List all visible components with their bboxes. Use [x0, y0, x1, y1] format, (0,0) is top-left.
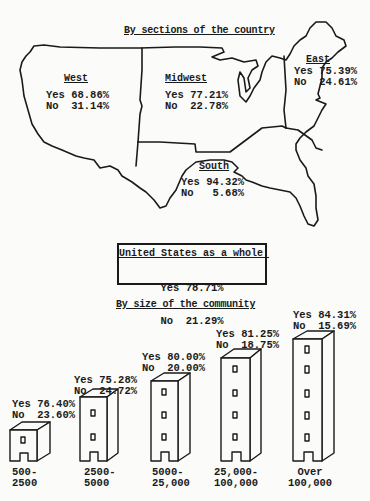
community-label: 25,000- 100,000: [214, 467, 258, 489]
west-south-border: [136, 142, 138, 166]
community-label: 2500- 5000: [84, 467, 116, 489]
community-no: No 18.75%: [216, 340, 279, 351]
region-name: West: [64, 73, 109, 84]
building-5000-25000: [151, 373, 190, 461]
sections-title: By sections of the country: [124, 25, 275, 36]
community-values-2500-5000: Yes 75.28% No 24.72%: [74, 375, 137, 397]
community-values-25000-100000: Yes 81.25% No 18.75%: [216, 329, 279, 351]
region-no: No 24.61%: [294, 77, 357, 88]
region-name: South: [199, 161, 244, 172]
community-values-5000-25000: Yes 80.00% No 20.00%: [142, 352, 205, 374]
region-name: East: [306, 54, 357, 65]
region-no: No 31.14%: [46, 101, 109, 112]
region-no: No 5.68%: [181, 188, 244, 199]
community-label: Over 100,000: [288, 467, 332, 489]
building-over-100000: [293, 331, 334, 461]
building-25000-100000: [221, 349, 261, 461]
us-whole-no: No 21.29%: [160, 316, 223, 327]
us-whole-yes: Yes 78.71%: [160, 283, 223, 294]
community-values-over-100000: Yes 84.31% No 15.69%: [293, 310, 356, 332]
midwest-south-border: [138, 126, 286, 152]
community-no: No 23.60%: [12, 410, 75, 421]
east-south-border: [286, 128, 322, 150]
region-no: No 22.78%: [165, 101, 228, 112]
us-whole-box: United States as a whole: Yes 78.71% No …: [117, 243, 267, 285]
region-midwest: Midwest Yes 77.21% No 22.78%: [165, 73, 228, 112]
community-no: No 15.69%: [293, 321, 356, 332]
region-name: Midwest: [165, 73, 228, 84]
community-label: 5000- 25,000: [152, 467, 190, 489]
community-label: 500- 2500: [12, 467, 37, 489]
midwest-east-border: [284, 56, 286, 128]
region-east: East Yes 75.39% No 24.61%: [294, 54, 357, 88]
community-values-500-2500: Yes 76.40% No 23.60%: [12, 399, 75, 421]
community-title: By size of the community: [116, 299, 255, 310]
community-no: No 20.00%: [142, 363, 205, 374]
region-south: South Yes 94.32% No 5.68%: [181, 161, 244, 199]
building-500-2500: [10, 422, 50, 461]
us-whole-heading: United States as a whole:: [119, 248, 265, 259]
building-2500-5000: [80, 389, 118, 461]
west-midwest-border: [138, 48, 142, 142]
region-west: West Yes 68.86% No 31.14%: [46, 73, 109, 112]
community-no: No 24.72%: [74, 386, 137, 397]
